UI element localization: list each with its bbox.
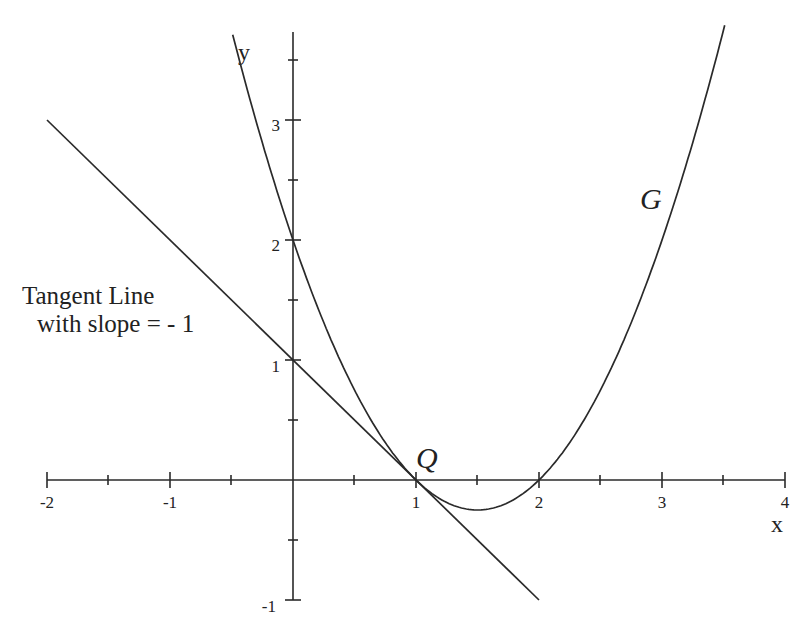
y-tick-label: 1: [272, 357, 281, 376]
x-tick-label: 4: [781, 493, 790, 512]
y-axis: [285, 32, 301, 600]
tangent-label-line2: with slope = - 1: [37, 310, 194, 337]
x-tick-label: -1: [163, 493, 177, 512]
x-tick-label: 3: [658, 493, 667, 512]
curve-label-g: G: [640, 182, 662, 215]
x-tick-label: -2: [40, 493, 54, 512]
curve-g: [233, 25, 725, 510]
x-tick-label: 1: [412, 493, 421, 512]
function-plot: -2 -1 1 2 3 4 -1 1 2 3 x y Tangent Line …: [0, 0, 810, 637]
y-tick-label: -1: [262, 597, 276, 616]
x-tick-label: 2: [535, 493, 544, 512]
tangent-label-line1: Tangent Line: [22, 282, 154, 309]
point-label-q: Q: [416, 441, 438, 474]
x-axis-label: x: [771, 511, 783, 537]
y-tick-label: 2: [272, 236, 281, 255]
y-tick-label: 3: [272, 116, 281, 135]
x-tick-labels: -2 -1 1 2 3 4: [40, 493, 790, 512]
